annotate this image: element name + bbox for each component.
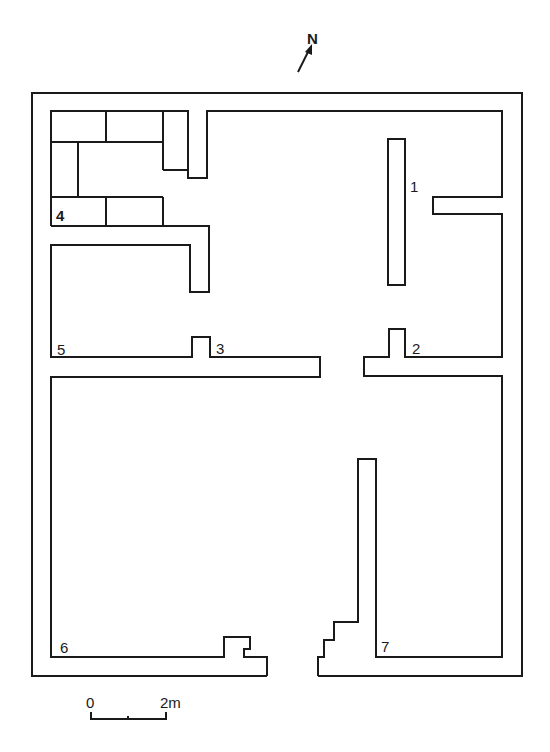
scale-start-label: 0 (86, 694, 94, 711)
scale-bar: 0 2m (86, 694, 181, 719)
scale-end-label: 2m (160, 694, 181, 711)
room-label-6: 6 (60, 639, 68, 656)
outer-wall-left (32, 93, 522, 676)
room-label-2: 2 (412, 340, 420, 357)
storage-cells (51, 111, 502, 676)
room-label-4: 4 (56, 207, 65, 224)
floor-plan: N 1 2 3 4 5 6 7 0 2m (0, 0, 550, 752)
room-label-7: 7 (381, 638, 389, 655)
room-label-5: 5 (57, 341, 65, 358)
interior-wall-east (51, 111, 502, 676)
north-arrow-shaft (298, 50, 309, 72)
room-label-3: 3 (216, 340, 224, 357)
column-1 (388, 139, 405, 285)
interior-wall-west (51, 226, 320, 676)
north-arrow: N (298, 30, 318, 72)
room-label-1: 1 (410, 178, 418, 195)
north-label: N (307, 30, 318, 47)
